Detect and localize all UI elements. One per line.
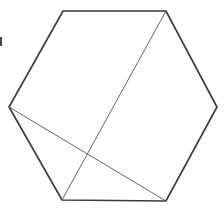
figure-canvas (0, 0, 224, 208)
diagonal-top-right-to-bottom-left (62, 11, 166, 200)
hexagon-outline (9, 11, 217, 201)
hexagon-diagram (0, 0, 224, 208)
diagonal-left-to-bottom-right (9, 107, 166, 201)
